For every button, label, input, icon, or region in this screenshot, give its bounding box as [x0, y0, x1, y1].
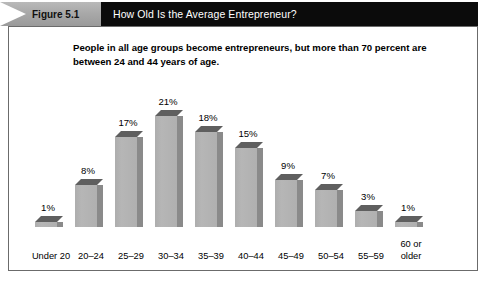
bar-front-face	[395, 222, 417, 227]
category-label: 25–29	[109, 251, 153, 263]
bar-value-label: 3%	[351, 191, 385, 202]
bar	[75, 179, 97, 227]
ribbon-notch-icon	[0, 2, 26, 26]
bar-value-label: 15%	[231, 128, 265, 139]
category-label: 20–24	[69, 251, 113, 263]
figure-tag-ribbon: Figure 5.1	[0, 2, 101, 26]
bar-front-face	[315, 190, 337, 227]
bar-front-face	[355, 211, 377, 227]
bar	[395, 216, 417, 227]
source-note-cropped	[0, 278, 486, 287]
chart-frame: People in all age groups become entrepre…	[8, 26, 478, 271]
bar	[315, 184, 337, 227]
bar	[235, 142, 257, 227]
category-label: 40–44	[229, 251, 273, 263]
category-label: 55–59	[349, 251, 393, 263]
bar-value-label: 17%	[111, 117, 145, 128]
bar-value-label: 1%	[391, 202, 425, 213]
bar-front-face	[75, 185, 97, 227]
bar-value-label: 21%	[151, 96, 185, 107]
bar-front-face	[195, 132, 217, 227]
figure-tag-label: Figure 5.1	[32, 9, 79, 20]
category-label: 50–54	[309, 251, 353, 263]
figure-panel: How Old Is the Average Entrepreneur? Fig…	[0, 0, 486, 287]
bar-front-face	[155, 116, 177, 227]
category-label: 35–39	[189, 251, 233, 263]
bar	[115, 131, 137, 227]
bar-value-label: 7%	[311, 170, 345, 181]
bar-side-face	[57, 222, 63, 227]
bar-side-face	[297, 180, 303, 227]
bar	[355, 205, 377, 227]
bar-side-face	[97, 185, 103, 227]
bar-front-face	[115, 137, 137, 227]
bar	[35, 216, 57, 227]
bar-side-face	[177, 116, 183, 227]
bar-chart-plot: 1%Under 208%20–2417%25–2921%30–3418%35–3…	[9, 27, 479, 272]
figure-title-bar: How Old Is the Average Entrepreneur?	[100, 2, 478, 26]
category-label: Under 20	[29, 251, 73, 263]
category-label: 30–34	[149, 251, 193, 263]
bar-side-face	[417, 222, 423, 227]
bar-value-label: 8%	[71, 165, 105, 176]
bar-side-face	[377, 211, 383, 227]
bar-value-label: 1%	[31, 202, 65, 213]
category-label: 45–49	[269, 251, 313, 263]
bar	[195, 126, 217, 227]
bar-front-face	[275, 180, 297, 227]
bar	[155, 110, 177, 227]
bar-side-face	[137, 137, 143, 227]
bar-side-face	[257, 148, 263, 227]
bar-value-label: 9%	[271, 160, 305, 171]
bar	[275, 174, 297, 227]
bar-value-label: 18%	[191, 112, 225, 123]
bar-front-face	[35, 222, 57, 227]
category-label: 60 or older	[389, 239, 433, 262]
figure-title: How Old Is the Average Entrepreneur?	[113, 8, 297, 20]
bar-side-face	[337, 190, 343, 227]
bar-front-face	[235, 148, 257, 227]
bar-side-face	[217, 132, 223, 227]
figure-header: How Old Is the Average Entrepreneur? Fig…	[0, 2, 478, 26]
